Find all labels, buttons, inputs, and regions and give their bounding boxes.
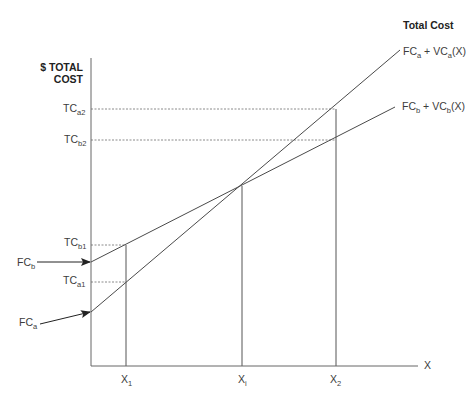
total-cost-line-b <box>91 107 395 262</box>
label-fcb: FCb <box>17 257 35 268</box>
label-fca: FCa <box>19 317 37 328</box>
y-tick-tcb2: TCb2 <box>64 134 86 145</box>
diagram-title: Total Cost <box>403 20 454 31</box>
curve-label-b: FCb + VCb(X) <box>402 101 465 112</box>
total-cost-line-a <box>91 50 400 312</box>
x-tick-x1: X1 <box>121 374 132 385</box>
y-axis-label-line2: COST <box>30 73 83 85</box>
x-axis-label: X <box>424 360 431 371</box>
y-tick-tca1: TCa1 <box>63 275 85 286</box>
fixed-cost-arrows <box>37 262 90 324</box>
y-tick-tcb1: TCb1 <box>64 237 86 248</box>
y-tick-tca2: TCa2 <box>63 103 85 114</box>
x-tick-x2: X2 <box>330 374 341 385</box>
cost-lines <box>91 50 400 312</box>
drop-lines <box>126 109 336 366</box>
x-tick-xi: Xi <box>238 374 247 385</box>
arrow-fca <box>40 312 90 324</box>
curve-label-a: FCa + VCa(X) <box>403 46 466 57</box>
y-axis-label-line1: $ TOTAL <box>30 61 83 73</box>
axes <box>91 58 418 366</box>
y-axis-label: $ TOTAL COST <box>30 61 83 85</box>
